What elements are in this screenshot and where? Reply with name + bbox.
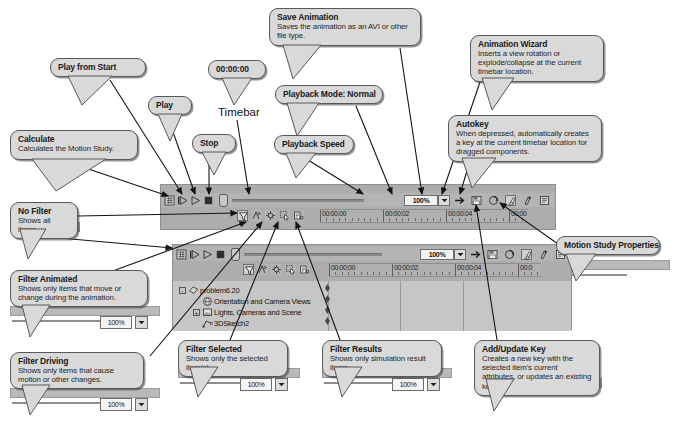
arrow-filter-animated	[110, 222, 246, 272]
callout-bubble: Animation WizardInserts a view rotation …	[470, 35, 604, 82]
callout-bubble: Filter AnimatedShows only items that mov…	[10, 270, 148, 307]
callout-bubble: Save AnimationSaves the animation as an …	[269, 8, 421, 46]
callout-title: Autokey	[456, 119, 594, 129]
callout-title: Playback Speed	[282, 139, 346, 149]
callout-body: Saves the animation as an AVI or other f…	[277, 22, 413, 40]
arrow-motion-props	[500, 203, 558, 244]
callout-tail	[269, 45, 425, 85]
callout-playback-mode: Playback Mode: Normal	[275, 85, 383, 104]
arrow-filter-driving	[150, 222, 262, 356]
callout-tail	[148, 114, 196, 147]
arrow-no-filter	[78, 213, 237, 216]
callout-play-from-start: Play from Start	[50, 58, 146, 77]
callout-title: Play	[156, 100, 184, 110]
callout-body: Shows only items that move or change dur…	[18, 284, 140, 302]
callout-stop: Stop	[192, 134, 236, 153]
callout-tail	[274, 153, 358, 184]
arrow-filter-results	[296, 222, 340, 340]
callout-bubble: Filter DrivingShows only items that caus…	[10, 352, 144, 389]
callout-bubble: Play from Start	[50, 58, 146, 77]
callout-save-animation: Save AnimationSaves the animation as an …	[269, 8, 421, 46]
callout-tail	[470, 78, 608, 116]
callout-add-update-key: Add/Update KeyCreates a new key with the…	[474, 340, 600, 396]
callout-title: Stop	[200, 138, 228, 148]
callout-title: Filter Animated	[18, 274, 140, 284]
callout-bubble: AutokeyWhen depressed, automatically cre…	[448, 115, 602, 162]
callout-title: Animation Wizard	[478, 39, 596, 49]
callout-tail	[10, 385, 148, 421]
callout-body: When depressed, automatically creates a …	[456, 129, 594, 157]
callout-title: Playback Mode: Normal	[283, 89, 375, 99]
callout-title: Filter Selected	[186, 344, 280, 354]
callout-filter-results: Filter ResultsShows only simulation resu…	[322, 340, 442, 377]
callout-body: Inserts a view rotation or explode/colla…	[478, 49, 596, 77]
callout-title: Play from Start	[58, 62, 138, 72]
arrow-add-update-key	[476, 205, 497, 340]
callout-calculate: CalculateCalculates the Motion Study.	[10, 130, 138, 160]
callout-tail	[10, 305, 152, 343]
callout-title: Filter Driving	[18, 356, 136, 366]
figure-canvas: 100%100%100%100% 100%00:00:0000:00:0200:…	[0, 0, 676, 432]
callout-bubble: CalculateCalculates the Motion Study.	[10, 130, 138, 160]
callout-tail	[322, 367, 446, 403]
callout-playback-speed: Playback Speed	[274, 135, 354, 154]
timebar-label: Timebar	[218, 106, 260, 118]
callout-tail	[178, 367, 292, 403]
callout-title: Calculate	[18, 134, 130, 144]
callout-tail	[192, 152, 240, 181]
callout-bubble: 00:00:00	[208, 60, 266, 79]
callout-title: Filter Results	[330, 344, 434, 354]
callout-title: Motion Study Properties	[564, 240, 652, 250]
callout-bubble: Play	[148, 96, 192, 115]
callout-body: Calculates the Motion Study.	[18, 144, 130, 153]
callout-filter-selected: Filter SelectedShows only the selected i…	[178, 340, 288, 377]
callout-tail	[448, 158, 606, 194]
callout-filter-animated: Filter AnimatedShows only items that mov…	[10, 270, 148, 307]
callout-title: No Filter	[18, 206, 70, 216]
callout-timebar-time: 00:00:00	[208, 60, 266, 79]
callout-tail	[10, 159, 142, 197]
callout-bubble: Stop	[192, 134, 236, 153]
callout-bubble: Playback Speed	[274, 135, 354, 154]
callout-body: Shows only items that cause motion or ot…	[18, 366, 136, 384]
callout-bubble: Motion Study Properties	[556, 236, 660, 255]
callout-title: 00:00:00	[216, 64, 258, 74]
callout-tail	[474, 379, 604, 417]
callout-play: Play	[148, 96, 192, 115]
arrow-filter-selected	[230, 222, 278, 340]
callout-filter-driving: Filter DrivingShows only items that caus…	[10, 352, 144, 389]
callout-no-filter: No FilterShows all items.	[10, 202, 78, 239]
callout-title: Save Animation	[277, 12, 413, 22]
callout-bubble: Playback Mode: Normal	[275, 85, 383, 104]
callout-animation-wizard: Animation WizardInserts a view rotation …	[470, 35, 604, 82]
callout-motion-study-properties: Motion Study Properties	[556, 236, 660, 255]
callout-tail	[50, 76, 150, 111]
callout-tail	[10, 229, 82, 265]
callout-tail	[556, 254, 664, 287]
callout-autokey: AutokeyWhen depressed, automatically cre…	[448, 115, 602, 162]
callout-title: Add/Update Key	[482, 344, 592, 354]
